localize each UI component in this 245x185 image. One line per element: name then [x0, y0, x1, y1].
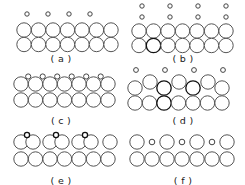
panel-e-label: ( e )	[0, 175, 122, 185]
panel-d-canvas	[122, 64, 244, 116]
panel-a-atoms	[0, 2, 122, 54]
panel-a: ( a )	[0, 2, 122, 64]
panel-a-canvas	[0, 2, 122, 54]
panel-d-atoms	[122, 64, 244, 116]
panel-d: ( d )	[122, 64, 244, 126]
panel-c-atoms	[0, 64, 122, 116]
panel-e-atoms	[0, 124, 122, 176]
panel-e: ( e )	[0, 124, 122, 185]
panel-b-atoms	[122, 2, 244, 54]
panel-b-canvas	[122, 2, 244, 54]
panel-f-canvas	[122, 124, 244, 176]
panel-c: ( c )	[0, 64, 122, 126]
panel-f: ( f )	[122, 124, 244, 185]
panel-b-label: ( b )	[122, 53, 244, 64]
panel-e-canvas	[0, 124, 122, 176]
figure-root: ( a )	[0, 0, 245, 185]
panel-a-label: ( a )	[0, 53, 122, 64]
panel-f-label: ( f )	[122, 175, 244, 185]
panel-c-canvas	[0, 64, 122, 116]
panel-b: ( b )	[122, 2, 244, 64]
panel-f-atoms	[122, 124, 244, 176]
